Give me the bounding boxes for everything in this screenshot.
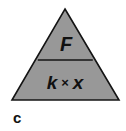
bottom-term-k: k (47, 72, 59, 93)
formula-triangle-figure: F k × x c (0, 0, 126, 131)
top-compartment-label: F (60, 33, 73, 55)
bottom-compartment-label: k × x (47, 72, 85, 93)
panel-caption-label: c (13, 109, 21, 126)
multiplication-sign-icon: × (61, 75, 69, 90)
formula-triangle-diagram: F k × x c (0, 0, 126, 131)
bottom-term-x: x (72, 72, 85, 93)
